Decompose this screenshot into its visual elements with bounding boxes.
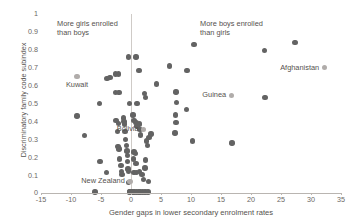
x-tick-label: 0	[116, 196, 146, 203]
data-point-bolivia[interactable]	[141, 127, 146, 132]
data-point[interactable]	[172, 130, 177, 135]
data-point[interactable]	[154, 81, 159, 86]
data-point[interactable]	[133, 161, 138, 166]
data-point-afghanistan[interactable]	[322, 65, 327, 70]
data-point[interactable]	[125, 153, 130, 158]
data-point-kuwait[interactable]	[74, 74, 79, 79]
country-label-kuwait: Kuwait	[55, 81, 99, 89]
annotation-line: More boys enrolled	[200, 19, 263, 28]
data-point[interactable]	[123, 137, 128, 142]
x-tick-label: 35	[326, 196, 350, 203]
x-tick-label: 15	[206, 196, 236, 203]
data-point[interactable]	[118, 163, 123, 168]
data-point[interactable]	[191, 42, 196, 47]
country-label-new-zealand: New Zealand	[81, 177, 125, 185]
country-label-bolivia: Bolivia	[117, 125, 139, 133]
data-point[interactable]	[104, 170, 109, 175]
data-point[interactable]	[134, 101, 139, 106]
data-point[interactable]	[146, 179, 151, 184]
data-point[interactable]	[190, 138, 195, 143]
annotation-line: than girls	[200, 28, 263, 37]
x-tick-label: 20	[236, 196, 266, 203]
data-point[interactable]	[229, 140, 234, 145]
data-point[interactable]	[136, 68, 141, 73]
data-point[interactable]	[292, 40, 297, 45]
x-tick-label: 5	[146, 196, 176, 203]
data-point[interactable]	[116, 71, 121, 76]
x-tick-label: 30	[296, 196, 326, 203]
x-tick-label: -5	[86, 196, 116, 203]
data-point[interactable]	[173, 89, 178, 94]
data-point[interactable]	[117, 156, 122, 161]
data-point[interactable]	[142, 165, 147, 170]
data-point[interactable]	[97, 159, 102, 164]
annotation-line: than boys	[57, 28, 118, 37]
data-point[interactable]	[143, 95, 148, 100]
data-point[interactable]	[107, 75, 112, 80]
x-tick-label: 10	[176, 196, 206, 203]
data-point[interactable]	[262, 95, 267, 100]
data-point[interactable]	[143, 157, 148, 162]
data-point[interactable]	[173, 120, 178, 125]
data-point[interactable]	[125, 159, 130, 164]
x-tick-label: -15	[26, 196, 56, 203]
data-point[interactable]	[184, 68, 189, 73]
plot-area: KuwaitNew ZealandBoliviaGuineaAfghanista…	[41, 14, 341, 193]
data-point[interactable]	[126, 54, 131, 59]
data-point[interactable]	[74, 113, 79, 118]
data-point[interactable]	[116, 90, 121, 95]
data-point[interactable]	[97, 101, 102, 106]
x-tick-label: -10	[56, 196, 86, 203]
data-point[interactable]	[127, 101, 132, 106]
country-label-guinea: Guinea	[202, 91, 226, 99]
data-point[interactable]	[145, 143, 150, 148]
data-point-guinea[interactable]	[229, 93, 234, 98]
annotation-line: More girls enrolled	[57, 19, 118, 28]
annotation-more-girls: More girls enrolledthan boys	[57, 19, 118, 38]
data-point[interactable]	[133, 54, 138, 59]
data-point[interactable]	[82, 133, 87, 138]
data-point[interactable]	[167, 63, 172, 68]
data-point-new-zealand[interactable]	[127, 179, 132, 184]
x-axis-title: Gender gaps in lower secondary enrolment…	[41, 208, 341, 217]
data-point[interactable]	[184, 107, 189, 112]
data-point[interactable]	[116, 146, 121, 151]
data-point[interactable]	[148, 131, 153, 136]
data-point[interactable]	[173, 112, 178, 117]
data-point[interactable]	[174, 100, 179, 105]
country-label-afghanistan: Afghanistan	[280, 64, 319, 72]
annotation-more-boys: More boys enrolledthan girls	[200, 19, 263, 38]
x-tick-label: 25	[266, 196, 296, 203]
data-point[interactable]	[262, 48, 267, 53]
y-axis-title: Discriminatory family code subindex	[20, 10, 28, 190]
